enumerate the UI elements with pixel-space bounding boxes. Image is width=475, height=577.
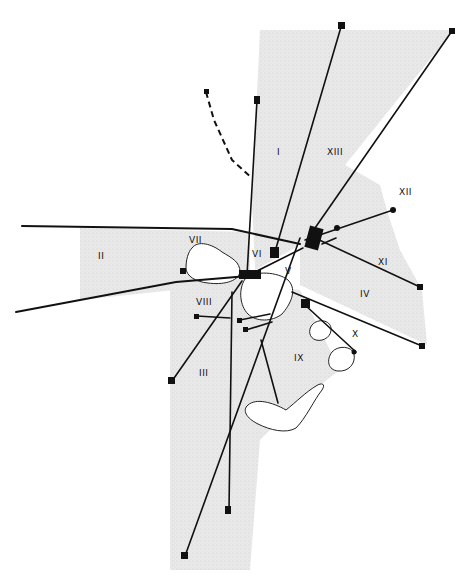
sector-label-xiii: XIII bbox=[327, 147, 343, 157]
lake-small-1 bbox=[310, 321, 331, 341]
sector-label-iv: IV bbox=[360, 289, 370, 299]
square-node-icon bbox=[180, 268, 186, 274]
square-node-icon bbox=[449, 28, 455, 34]
sector-label-ii: II bbox=[98, 251, 104, 261]
round-node-icon bbox=[334, 225, 340, 231]
square-node-icon bbox=[243, 327, 248, 332]
square-node-icon bbox=[237, 318, 242, 323]
dashed-transect bbox=[206, 92, 252, 178]
sector-label-vi: VI bbox=[252, 249, 262, 259]
square-node-icon bbox=[338, 22, 345, 29]
square-node-icon bbox=[204, 89, 209, 94]
square-node-icon bbox=[225, 506, 231, 514]
square-node-icon bbox=[194, 314, 199, 319]
square-node-icon bbox=[254, 96, 260, 104]
square-node-icon bbox=[181, 552, 188, 559]
sector-label-i: I bbox=[277, 147, 280, 157]
square-node-icon bbox=[168, 377, 175, 384]
sector-label-xi: XI bbox=[378, 257, 388, 267]
sector-label-v: V bbox=[285, 266, 292, 276]
sector-label-viii: VIII bbox=[196, 297, 212, 307]
sector-label-xii: XII bbox=[399, 187, 412, 197]
lake-small-2 bbox=[329, 347, 355, 371]
sector-label-vii: VII bbox=[189, 235, 202, 245]
sector-label-iii: III bbox=[199, 368, 208, 378]
square-node-icon bbox=[419, 343, 425, 349]
square-node-icon bbox=[417, 284, 423, 290]
round-node-icon bbox=[390, 207, 396, 213]
round-node-icon bbox=[352, 350, 357, 355]
station-block-icon bbox=[270, 247, 279, 258]
sector-label-ix: IX bbox=[294, 353, 304, 363]
sector-label-x: X bbox=[352, 329, 359, 339]
station-block-icon bbox=[239, 270, 261, 279]
sector-map-diagram: I II III IV V VI VII VIII IX X XI XII XI… bbox=[0, 0, 475, 577]
station-block-icon bbox=[301, 299, 310, 308]
